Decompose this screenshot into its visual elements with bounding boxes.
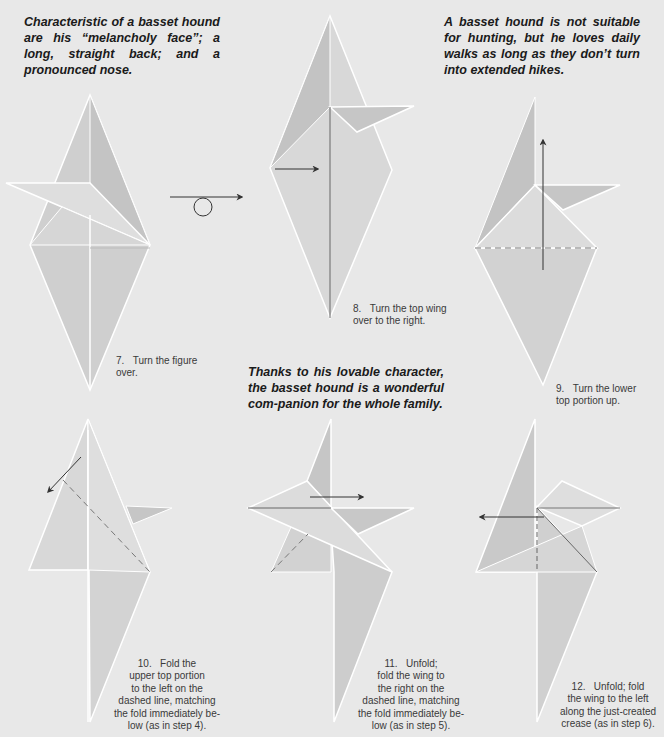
step-9-caption: 9. Turn the lower top portion up. bbox=[556, 370, 664, 408]
step-8-figure bbox=[270, 16, 414, 318]
turn-over-arrow-icon bbox=[170, 197, 242, 216]
step-11-caption: 11. Unfold; fold the wing to the right o… bbox=[348, 645, 474, 733]
step-8-text: Turn the top wing over to the right. bbox=[353, 303, 447, 327]
origami-diagrams bbox=[0, 0, 664, 737]
step-8-number: 8. bbox=[353, 303, 361, 314]
step-10-caption: 10. Fold the upper top portion to the le… bbox=[104, 645, 230, 733]
step-7-number: 7. bbox=[116, 355, 124, 366]
step-11-text: Unfold; fold the wing to the right on th… bbox=[358, 658, 464, 732]
step-12-number: 12. bbox=[572, 681, 586, 692]
step-10-number: 10. bbox=[138, 658, 152, 669]
step-9-figure bbox=[475, 97, 620, 385]
step-7-caption: 7. Turn the figure over. bbox=[116, 342, 226, 380]
step-10-text: Fold the upper top portion to the left o… bbox=[114, 658, 220, 732]
step-8-caption: 8. Turn the top wing over to the right. bbox=[353, 290, 463, 328]
step-11-number: 11. bbox=[384, 658, 397, 669]
step-9-number: 9. bbox=[556, 383, 564, 394]
step-9-text: Turn the lower top portion up. bbox=[556, 383, 636, 407]
step-7-text: Turn the figure over. bbox=[116, 355, 197, 379]
step-12-caption: 12. Unfold; fold the wing to the left al… bbox=[552, 668, 664, 731]
